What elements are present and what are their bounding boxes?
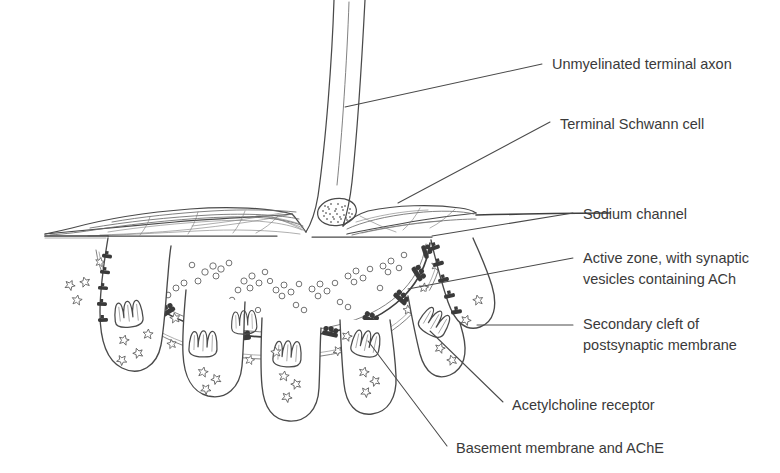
schwann-nucleus bbox=[316, 196, 358, 228]
leader-sodium-channel bbox=[432, 213, 573, 236]
label-secondary-cleft-line1: Secondary cleft of bbox=[583, 316, 700, 332]
label-terminal-schwann-cell: Terminal Schwann cell bbox=[560, 116, 704, 132]
label-unmyelinated-terminal-axon: Unmyelinated terminal axon bbox=[552, 56, 732, 72]
secondary-cleft bbox=[261, 318, 321, 421]
terminal-schwann-cell-right bbox=[316, 196, 476, 235]
label-secondary-cleft-line2: postsynaptic membrane bbox=[583, 337, 737, 353]
label-basement-membrane: Basement membrane and AChE bbox=[456, 440, 664, 456]
diagram-canvas: Unmyelinated terminal axon Terminal Schw… bbox=[0, 0, 780, 473]
leader-terminal-schwann-cell bbox=[398, 122, 550, 203]
label-acetylcholine-receptor: Acetylcholine receptor bbox=[512, 397, 655, 413]
terminal-schwann-cell-shape bbox=[45, 208, 306, 236]
label-active-zone-line1: Active zone, with synaptic bbox=[583, 250, 749, 266]
nmj-diagram: Unmyelinated terminal axon Terminal Schw… bbox=[0, 0, 780, 473]
leader-unmyelinated-terminal-axon bbox=[345, 64, 542, 107]
label-sodium-channel: Sodium channel bbox=[583, 206, 687, 222]
label-active-zone-line2: vesicles containing ACh bbox=[583, 271, 736, 287]
unmyelinated-terminal-axon-shape bbox=[306, 0, 365, 232]
